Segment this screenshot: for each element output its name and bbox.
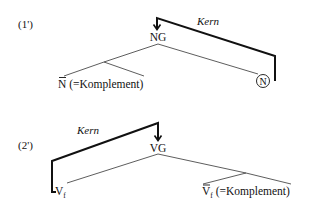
head-node-n: N: [259, 76, 266, 87]
kern-label-1: Kern: [196, 15, 220, 27]
complement-node-2: Vf (=Komplement): [202, 185, 290, 200]
root-node-ng: NG: [150, 31, 167, 43]
branch-vg-to-complement: [158, 154, 246, 173]
head-node-vf: Vf: [55, 185, 66, 200]
example-label-2: (2'): [18, 139, 33, 152]
kern-path-1: [157, 18, 275, 81]
complement-triangle-2: [203, 173, 291, 184]
branch-ng-to-head: [158, 44, 258, 74]
complement-node-1: N (=Komplement): [58, 78, 144, 91]
diagram-1: (1') Kern NG N (=Komplement) N: [18, 15, 275, 91]
branch-vg-to-head: [67, 154, 158, 183]
diagram-2: (2') Kern VG Vf Vf (=Komplement): [18, 123, 291, 200]
branch-ng-to-complement: [104, 44, 158, 62]
root-node-vg: VG: [150, 142, 167, 154]
kern-path-2: [52, 123, 158, 192]
kern-label-2: Kern: [76, 124, 100, 136]
complement-triangle-1: [64, 62, 144, 76]
example-label-1: (1'): [18, 18, 33, 31]
syntax-trees-diagram: (1') Kern NG N (=Komplement) N (2') Kern…: [0, 0, 310, 209]
